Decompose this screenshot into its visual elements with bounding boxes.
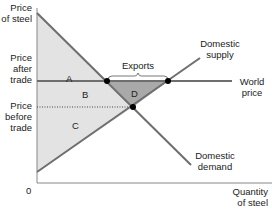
world-price-label: World price	[232, 76, 272, 98]
exports-label: Exports	[115, 60, 161, 71]
pa-2: after	[0, 63, 32, 74]
region-c-label: C	[72, 120, 79, 131]
origin-label: 0	[26, 185, 31, 196]
point-equilibrium	[130, 104, 136, 110]
region-b-label: B	[82, 89, 88, 100]
region-d-label: D	[131, 88, 138, 99]
y-axis-label: Price of steel	[0, 2, 32, 24]
supply-label-2: supply	[195, 49, 245, 60]
x-axis-label-2: of steel	[220, 197, 268, 208]
world-label-2: price	[232, 87, 272, 98]
supply-label-1: Domestic	[195, 38, 245, 49]
point-demand-world	[104, 78, 110, 84]
pb-3: trade	[0, 122, 32, 133]
supply-label: Domestic supply	[195, 38, 245, 60]
pa-1: Price	[0, 52, 32, 63]
demand-label-2: demand	[190, 161, 240, 172]
pb-1: Price	[0, 100, 32, 111]
demand-label-1: Domestic	[190, 150, 240, 161]
price-after-label: Price after trade	[0, 52, 32, 85]
world-label-1: World	[232, 76, 272, 87]
x-axis-label-1: Quantity	[220, 186, 268, 197]
y-axis-label-2: of steel	[0, 13, 32, 24]
pb-2: before	[0, 111, 32, 122]
x-axis-label: Quantity of steel	[220, 186, 268, 208]
point-supply-world	[165, 78, 171, 84]
y-axis-label-1: Price	[0, 2, 32, 13]
demand-label: Domestic demand	[190, 150, 240, 172]
exports-bracket	[108, 73, 168, 80]
region-a-label: A	[66, 73, 72, 84]
pa-3: trade	[0, 74, 32, 85]
chart-canvas	[0, 0, 272, 211]
price-before-label: Price before trade	[0, 100, 32, 133]
